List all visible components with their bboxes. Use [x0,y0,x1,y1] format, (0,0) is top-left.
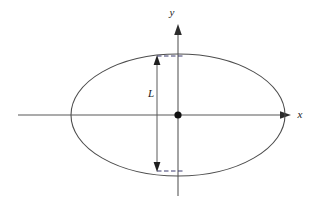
x-axis-label: x [297,108,303,120]
diagram-canvas: y x L [0,0,317,204]
origin-point-marker [174,111,181,118]
ellipse-diagram-figure: y x L [0,0,317,204]
y-axis-label: y [169,6,175,18]
dimension-label-L: L [147,87,154,99]
y-axis-arrow-icon [174,24,182,35]
